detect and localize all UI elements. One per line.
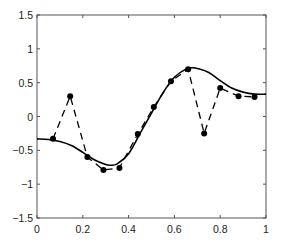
- x-tick-label: 0.4: [121, 223, 136, 235]
- line-chart: 00.20.40.60.81 −1.5−1−0.500.511.5: [0, 0, 281, 248]
- data-point-marker: [217, 85, 223, 91]
- y-tick-label: 0: [27, 111, 33, 123]
- data-series: [37, 66, 266, 173]
- data-point-marker: [100, 167, 106, 173]
- x-tick-label: 1: [263, 223, 269, 235]
- x-tick-label: 0: [34, 223, 40, 235]
- data-point-marker: [168, 78, 174, 84]
- data-point-marker: [236, 93, 242, 99]
- data-point-marker: [252, 94, 258, 100]
- y-tick-label: 0.5: [18, 77, 33, 89]
- data-point-marker: [67, 93, 73, 99]
- data-point-marker: [201, 130, 207, 136]
- y-tick-label: −1: [21, 178, 33, 190]
- plot-area: [37, 15, 266, 218]
- data-point-marker: [151, 104, 157, 110]
- data-point-marker: [185, 66, 191, 72]
- x-axis-tick-labels: 00.20.40.60.81: [34, 223, 269, 235]
- y-tick-label: 1.5: [18, 9, 33, 21]
- data-point-marker: [84, 154, 90, 160]
- axes-frame: [37, 15, 266, 218]
- x-tick-label: 0.6: [167, 223, 182, 235]
- y-tick-label: −1.5: [12, 212, 33, 224]
- y-tick-label: −0.5: [12, 144, 33, 156]
- data-point-marker: [50, 136, 56, 142]
- data-point-marker: [116, 165, 122, 171]
- x-tick-label: 0.8: [213, 223, 228, 235]
- y-tick-label: 1: [27, 43, 33, 55]
- smooth-curve-line: [37, 68, 266, 166]
- x-tick-label: 0.2: [75, 223, 90, 235]
- data-point-marker: [135, 131, 141, 137]
- axis-ticks: [37, 15, 266, 218]
- y-axis-tick-labels: −1.5−1−0.500.511.5: [12, 9, 33, 224]
